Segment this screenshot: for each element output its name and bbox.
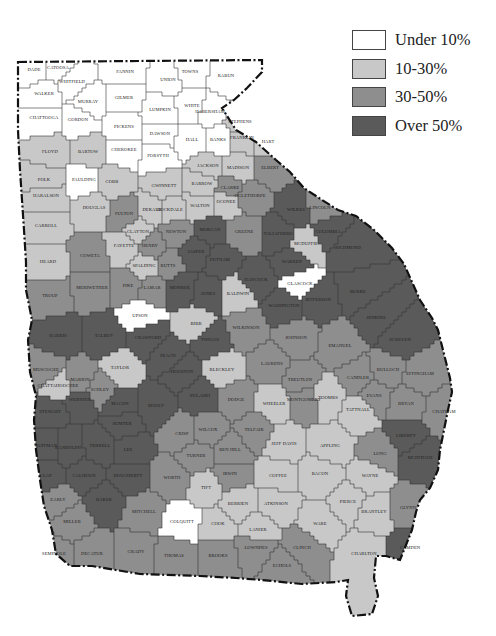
county-label: EMANUEL — [328, 343, 351, 348]
county-label: MADISON — [227, 165, 250, 170]
county-label: CRISP — [175, 431, 189, 436]
county-label: CLARKE — [221, 185, 240, 190]
legend-label: Under 10% — [395, 30, 471, 50]
county-label: OGLETHORPE — [234, 193, 265, 198]
county-label: WILKINSON — [233, 325, 261, 330]
county-label: THOMAS — [164, 553, 184, 558]
county-label: GORDON — [68, 117, 89, 122]
legend-label: 10-30% — [395, 59, 447, 79]
county-label: LONG — [373, 451, 387, 456]
county-label: BRANTLEY — [361, 509, 387, 514]
county-label: WARE — [313, 521, 327, 526]
county-camden — [386, 524, 458, 620]
county-label: TOWNS — [182, 69, 199, 74]
county-label: PIERCE — [340, 499, 357, 504]
county-label: SUMTER — [112, 421, 132, 426]
county-label: WASHINGTON — [268, 303, 300, 308]
county-label: CHARLTON — [351, 551, 377, 556]
county-label: WILCOX — [199, 427, 219, 432]
county-label: BIBB — [190, 321, 201, 326]
legend-label: 30-50% — [395, 87, 447, 107]
county-label: BERRIEN — [228, 501, 249, 506]
county-charlton — [330, 528, 394, 620]
county-label: BROOKS — [208, 553, 228, 558]
legend-swatch — [352, 30, 386, 50]
county-label: BUTTS — [160, 263, 175, 268]
county-label: CRAWFORD — [135, 335, 162, 340]
county-label: COWETA — [80, 253, 100, 258]
county-label: SCHLEY — [91, 387, 110, 392]
county-label: BARROW — [192, 181, 213, 186]
county-label: RICHMOND — [335, 245, 361, 250]
county-label: TROUP — [42, 293, 58, 298]
county-label: CALHOUN — [72, 473, 96, 478]
county-richmond — [326, 144, 458, 272]
county-label: NEWTON — [166, 229, 187, 234]
county-label: TAYLOR — [111, 365, 130, 370]
county-label: CANDLER — [347, 375, 370, 380]
county-label: JOHNSON — [285, 335, 307, 340]
county-label: WHITE — [184, 103, 199, 108]
county-label: SCREVEN — [389, 337, 411, 342]
legend-item-over-50: Over 50% — [352, 112, 471, 141]
county-label: CAMDEN — [400, 545, 421, 550]
county-label: MCDUFFIE — [294, 241, 318, 246]
county-label: LEE — [124, 447, 133, 452]
county-label: TIFT — [201, 485, 211, 490]
county-label: GREENE — [235, 229, 254, 234]
county-label: BURKE — [350, 289, 366, 294]
county-label: COBB — [106, 179, 119, 184]
county-label: GILMER — [115, 95, 134, 100]
legend-item-30-50: 30-50% — [352, 83, 471, 112]
county-label: UPSON — [132, 313, 148, 318]
county-label: PIKE — [123, 283, 134, 288]
county-label: STEWART — [39, 409, 61, 414]
county-label: HALL — [186, 137, 199, 142]
county-label: EVANS — [366, 393, 382, 398]
county-label: CATOOSA — [47, 65, 69, 70]
county-label: TWIGGS — [201, 337, 220, 342]
county-label: TALBOT — [95, 333, 113, 338]
county-label: DOOLY — [148, 403, 165, 408]
county-label: WORTH — [163, 475, 181, 480]
county-label: BULLOCH — [377, 367, 400, 372]
county-meriwether — [70, 272, 110, 316]
county-label: LOWNDES — [244, 545, 268, 550]
county-label: BEN HILL — [219, 447, 241, 452]
county-label: PAULDING — [72, 177, 96, 182]
county-label: BACON — [312, 471, 329, 476]
county-label: PEACH — [160, 353, 176, 358]
county-label: BANKS — [210, 137, 226, 142]
legend-swatch — [352, 87, 386, 107]
county-label: LIBERTY — [396, 433, 416, 438]
county-label: FAYETTE — [114, 243, 134, 248]
county-label: MCINTOSH — [408, 455, 433, 460]
county-label: FANNIN — [116, 69, 134, 74]
county-label: WAYNE — [362, 473, 379, 478]
county-label: TALIAFERRO — [263, 231, 293, 236]
legend-swatch — [352, 59, 386, 79]
county-label: TERRELL — [90, 443, 111, 448]
county-label: EFFINGHAM — [406, 371, 434, 376]
county-label: MILLER — [63, 519, 82, 524]
county-label: MORGAN — [199, 227, 221, 232]
county-label: ROCKDALE — [157, 207, 183, 212]
county-thomas — [150, 536, 198, 620]
county-label: HART — [262, 139, 275, 144]
county-label: HOUSTON — [171, 369, 194, 374]
county-label: COLQUITT — [170, 519, 194, 524]
county-label: FULTON — [115, 211, 134, 216]
county-label: FLOYD — [42, 149, 58, 154]
county-label: DOUGHERTY — [113, 473, 143, 478]
county-label: DOUGLAS — [83, 205, 106, 210]
county-label: WEBSTER — [69, 397, 92, 402]
county-label: HARALSON — [33, 193, 59, 198]
county-label: LUMPKIN — [149, 107, 171, 112]
county-label: JASPER — [188, 249, 206, 254]
county-label: POLK — [38, 177, 51, 182]
county-label: CHEROKEE — [111, 147, 136, 152]
county-label: ATKINSON — [264, 501, 288, 506]
county-label: MONTGOMERY — [287, 397, 322, 402]
county-label: PULASKI — [190, 393, 210, 398]
county-label: LINCOLN — [310, 205, 331, 210]
